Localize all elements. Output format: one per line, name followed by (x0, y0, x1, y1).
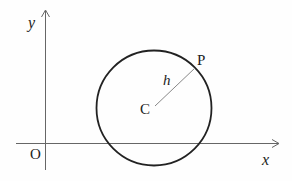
center-label: C (140, 102, 150, 117)
y-axis-label: y (28, 15, 35, 31)
radius-label: h (163, 73, 171, 88)
diagram-canvas: y x O C P h (0, 0, 292, 181)
point-label: P (197, 53, 205, 68)
origin-label: O (30, 147, 41, 162)
circle (97, 51, 212, 166)
x-axis-label: x (262, 152, 269, 168)
radius-line (155, 68, 195, 106)
diagram-svg (0, 0, 292, 181)
